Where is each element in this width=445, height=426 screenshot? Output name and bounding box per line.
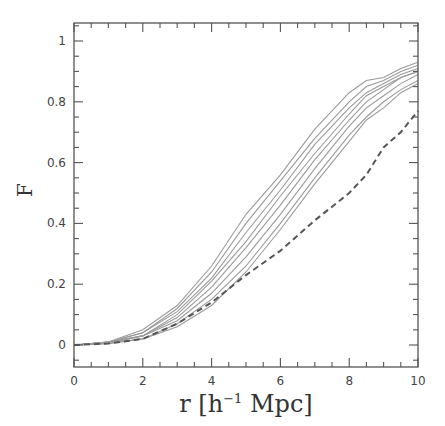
- x-tick-label: 4: [208, 374, 216, 388]
- y-tick-label: 0.8: [47, 95, 66, 109]
- y-tick-label: 0.4: [47, 216, 66, 230]
- chart: 0246810 00.20.40.60.81 r [h−1 Mpc] F: [0, 0, 445, 426]
- plot-frame: [74, 23, 418, 367]
- solid-curve: [74, 62, 418, 345]
- y-tick-label: 0: [58, 338, 66, 352]
- solid-curve: [74, 71, 418, 345]
- x-tick-label: 8: [345, 374, 353, 388]
- x-tick-label: 6: [277, 374, 285, 388]
- solid-curve: [74, 68, 418, 345]
- y-tick-labels: 00.20.40.60.81: [47, 34, 66, 352]
- y-tick-label: 0.6: [47, 156, 66, 170]
- dashed-curve: [74, 111, 418, 345]
- plot-curves: [74, 62, 418, 345]
- solid-curve: [74, 71, 418, 345]
- x-axis-label: r [h−1 Mpc]: [179, 390, 312, 418]
- solid-curve: [74, 74, 418, 345]
- x-tick-label: 0: [70, 374, 78, 388]
- y-tick-label: 0.2: [47, 277, 66, 291]
- x-tick-label: 10: [410, 374, 425, 388]
- x-tick-label: 2: [139, 374, 147, 388]
- y-axis-label: F: [13, 183, 37, 197]
- y-tick-label: 1: [58, 34, 66, 48]
- x-tick-labels: 0246810: [70, 374, 425, 388]
- axis-ticks: [74, 23, 418, 367]
